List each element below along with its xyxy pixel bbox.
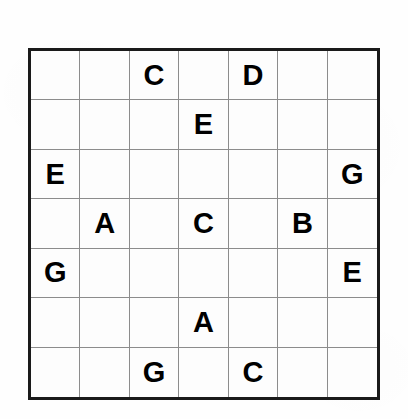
grid-cell-r4c3[interactable] — [130, 199, 179, 248]
grid-cell-r4c5[interactable] — [229, 199, 278, 248]
grid-cell-r2c1[interactable] — [31, 100, 80, 149]
cell-letter: G — [143, 358, 166, 387]
grid-cell-r5c4[interactable] — [179, 249, 228, 298]
grid-cell-r5c7[interactable]: E — [328, 249, 377, 298]
grid-cell-r4c7[interactable] — [328, 199, 377, 248]
grid-cell-r6c3[interactable] — [130, 298, 179, 347]
grid-cell-r2c6[interactable] — [278, 100, 327, 149]
grid-cell-r2c4[interactable]: E — [179, 100, 228, 149]
grid-cell-r5c1[interactable]: G — [31, 249, 80, 298]
grid-cell-r5c3[interactable] — [130, 249, 179, 298]
grid-cell-r3c7[interactable]: G — [328, 150, 377, 199]
cell-letter: A — [193, 308, 214, 337]
grid-cell-r3c3[interactable] — [130, 150, 179, 199]
grid-cell-r4c2[interactable]: A — [80, 199, 129, 248]
cell-letter: C — [242, 358, 263, 387]
grid-cell-r1c4[interactable] — [179, 51, 228, 100]
grid-cell-r1c6[interactable] — [278, 51, 327, 100]
grid-cell-r7c7[interactable] — [328, 348, 377, 397]
grid-cell-r1c5[interactable]: D — [229, 51, 278, 100]
cell-letter: A — [94, 209, 115, 238]
grid-cell-r2c7[interactable] — [328, 100, 377, 149]
grid-cell-r3c1[interactable]: E — [31, 150, 80, 199]
grid-cell-r1c3[interactable]: C — [130, 51, 179, 100]
grid-cell-r6c7[interactable] — [328, 298, 377, 347]
cell-letter: C — [193, 209, 214, 238]
grid-cell-r4c6[interactable]: B — [278, 199, 327, 248]
grid-cell-r5c2[interactable] — [80, 249, 129, 298]
grid-cell-r6c6[interactable] — [278, 298, 327, 347]
cell-letter: C — [144, 61, 165, 90]
grid-cell-r7c5[interactable]: C — [229, 348, 278, 397]
grid-cell-r6c2[interactable] — [80, 298, 129, 347]
grid-cell-r6c5[interactable] — [229, 298, 278, 347]
grid-cell-r1c7[interactable] — [328, 51, 377, 100]
grid-cell-r3c2[interactable] — [80, 150, 129, 199]
cell-letter: E — [343, 258, 362, 287]
grid-cell-r7c2[interactable] — [80, 348, 129, 397]
grid-cell-r2c3[interactable] — [130, 100, 179, 149]
grid-cell-r7c6[interactable] — [278, 348, 327, 397]
grid-cell-r1c2[interactable] — [80, 51, 129, 100]
puzzle-grid: CDEEGACBGEAGC — [28, 48, 380, 400]
grid-cell-r7c4[interactable] — [179, 348, 228, 397]
grid-cell-r4c4[interactable]: C — [179, 199, 228, 248]
cell-letter: G — [44, 258, 67, 287]
grid-cell-r3c6[interactable] — [278, 150, 327, 199]
grid-cell-r5c6[interactable] — [278, 249, 327, 298]
grid-cell-r4c1[interactable] — [31, 199, 80, 248]
grid-cell-r7c3[interactable]: G — [130, 348, 179, 397]
cell-letter: B — [292, 209, 313, 238]
grid-cell-r3c5[interactable] — [229, 150, 278, 199]
cell-letter: E — [46, 160, 65, 189]
grid-cell-r2c2[interactable] — [80, 100, 129, 149]
grid-cell-r7c1[interactable] — [31, 348, 80, 397]
cell-letter: D — [242, 61, 263, 90]
grid-cell-r6c1[interactable] — [31, 298, 80, 347]
grid-cell-r6c4[interactable]: A — [179, 298, 228, 347]
cell-letter: G — [341, 160, 364, 189]
grid-cell-r3c4[interactable] — [179, 150, 228, 199]
grid-cell-r2c5[interactable] — [229, 100, 278, 149]
grid-cell-r1c1[interactable] — [31, 51, 80, 100]
cell-letter: E — [194, 110, 213, 139]
grid-cell-r5c5[interactable] — [229, 249, 278, 298]
